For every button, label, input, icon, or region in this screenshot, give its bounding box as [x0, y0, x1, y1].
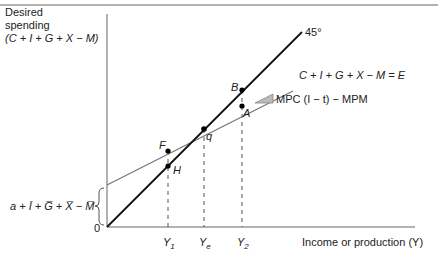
label-q: q [206, 130, 213, 142]
intercept-brace [95, 188, 104, 225]
label-h: H [173, 164, 181, 176]
label-ae-line: C + I + G + X − M = E [299, 69, 406, 81]
x-axis-label: Income or production (Y) [302, 236, 423, 248]
origin-label: 0 [94, 222, 100, 234]
tick-y2: Y2 [237, 236, 249, 251]
ae-line [107, 91, 293, 185]
y-axis-label-line3: (C + I + G + X − M) [5, 32, 99, 44]
point-b [239, 87, 244, 92]
y-axis-label-line1: Desired [5, 6, 43, 18]
tick-ye: Ye [199, 236, 211, 251]
label-b: B [231, 81, 238, 93]
label-slope: MPC (I − t) − MPM [276, 93, 368, 105]
y-axis-label-line2: spending [5, 19, 50, 31]
point-h [165, 163, 170, 168]
keynesian-cross-diagram: B A q F H 45° C + I + G + X − M = E MPC … [0, 0, 438, 268]
point-f [165, 148, 170, 153]
label-f: F [159, 139, 167, 151]
tick-y1: Y1 [163, 236, 175, 251]
intercept-label: a + Ī + G̅ + X̅ − M̅ [10, 200, 95, 212]
label-a: A [242, 107, 250, 119]
label-45: 45° [305, 26, 322, 38]
slope-triangle [255, 94, 273, 103]
